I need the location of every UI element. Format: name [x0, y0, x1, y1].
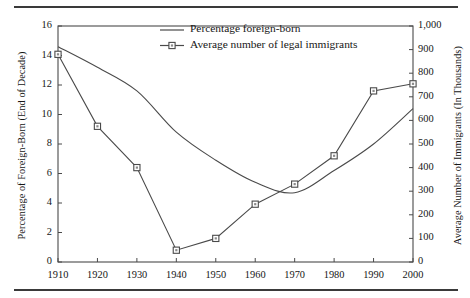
plot-frame [58, 26, 413, 262]
legend-item-label: Percentage foreign-born [190, 22, 300, 34]
x-axis-tick-label: 1990 [352, 269, 396, 280]
y-axis-left-tick-label: 10 [18, 108, 52, 119]
legend-swatch-marker-center [171, 44, 173, 46]
series-line-percentage-foreign-born [58, 47, 413, 193]
y-axis-right-tick-label: 400 [418, 161, 458, 172]
y-axis-left-tick-label: 12 [18, 78, 52, 89]
series-marker-square-center [175, 249, 177, 251]
x-axis-tick-label: 1970 [273, 269, 317, 280]
y-axis-left-tick-label: 6 [18, 167, 52, 178]
series-marker-square-center [412, 83, 414, 85]
y-axis-right-tick-label: 200 [418, 208, 458, 219]
series-marker-square-center [57, 53, 59, 55]
series-marker-square-center [254, 203, 256, 205]
y-axis-left-tick-label: 16 [18, 19, 52, 30]
y-axis-left-tick-label: 2 [18, 226, 52, 237]
x-axis-tick-label: 1910 [36, 269, 80, 280]
y-axis-left-tick-label: 8 [18, 137, 52, 148]
y-axis-right-tick-label: 800 [418, 66, 458, 77]
series-line-average-legal-immigrants [58, 54, 413, 250]
y-axis-left-tick-label: 0 [18, 255, 52, 266]
y-axis-left-tick-label: 14 [18, 49, 52, 60]
x-axis-tick-label: 1920 [75, 269, 119, 280]
y-axis-right-tick-label: 1,000 [418, 19, 458, 30]
series-marker-square-center [215, 237, 217, 239]
series-marker-square-center [372, 90, 374, 92]
x-axis-tick-label: 1980 [312, 269, 356, 280]
legend-item-label: Average number of legal immigrants [190, 38, 357, 50]
series-marker-square-center [333, 155, 335, 157]
y-axis-right-tick-label: 300 [418, 184, 458, 195]
y-axis-right-tick-label: 600 [418, 113, 458, 124]
y-axis-right-tick-label: 0 [418, 255, 458, 266]
x-axis-tick-label: 1960 [233, 269, 277, 280]
y-axis-right-tick-label: 900 [418, 43, 458, 54]
x-axis-tick-label: 2000 [391, 269, 435, 280]
y-axis-right-tick-label: 700 [418, 90, 458, 101]
x-axis-tick-label: 1940 [154, 269, 198, 280]
y-axis-right-tick-label: 100 [418, 231, 458, 242]
y-axis-left-tick-label: 4 [18, 196, 52, 207]
x-axis-tick-label: 1950 [194, 269, 238, 280]
x-axis-tick-label: 1930 [115, 269, 159, 280]
series-marker-square-center [294, 183, 296, 185]
series-marker-square-center [96, 125, 98, 127]
chart-figure: Percentage of Foreign-Born (End of Decad… [0, 0, 470, 298]
series-marker-square-center [136, 167, 138, 169]
y-axis-right-tick-label: 500 [418, 137, 458, 148]
